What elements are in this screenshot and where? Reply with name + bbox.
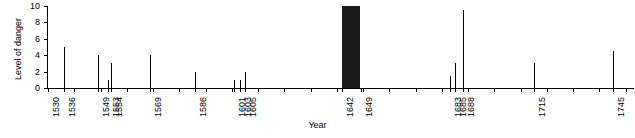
x-axis-tick-label: 1642 [346,97,355,117]
x-axis-tick-label: 1554 [115,97,124,117]
x-axis-tick-label: 1586 [199,97,208,117]
x-axis-title: Year [0,120,635,130]
x-axis-tick-labels: 1530153615491553155415691586160116031605… [0,0,635,138]
x-axis-tick-label: 1536 [68,97,77,117]
x-axis-tick-label: 1530 [52,97,61,117]
x-axis-tick-label: 1715 [538,97,547,117]
chart-figure: Level of danger 0246810 1530153615491553… [0,0,635,138]
x-axis-tick-label: 1649 [365,97,374,117]
x-axis-tick-label: 1569 [154,97,163,117]
x-axis-tick-label: 1605 [249,97,258,117]
x-axis-tick-label: 1745 [617,97,626,117]
x-axis-tick-label: 1549 [102,97,111,117]
x-axis-tick-label: 1688 [467,97,476,117]
